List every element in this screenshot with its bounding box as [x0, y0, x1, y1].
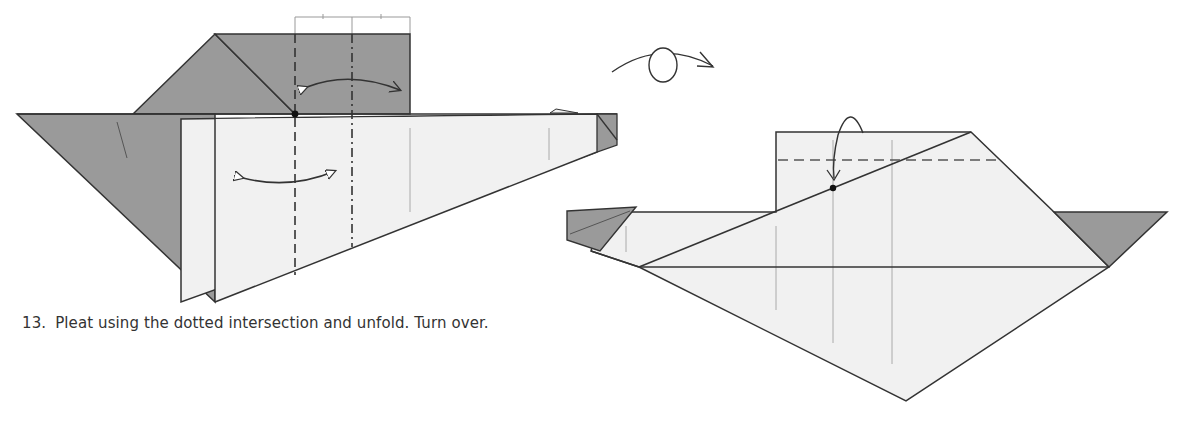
origami-diagram [0, 0, 1183, 422]
right-tip [597, 114, 617, 152]
light-body-mask [215, 115, 597, 302]
reference-point [292, 111, 299, 118]
measurement-marks [295, 14, 410, 34]
right-figure [567, 117, 1167, 401]
step-number: 13. [22, 314, 46, 332]
left-figure [17, 14, 617, 302]
step-instruction: Pleat using the dotted intersection and … [55, 314, 489, 332]
step-caption: 13.Pleat using the dotted intersection a… [22, 314, 489, 332]
reference-point [830, 185, 836, 191]
turn-over-icon [612, 48, 713, 82]
